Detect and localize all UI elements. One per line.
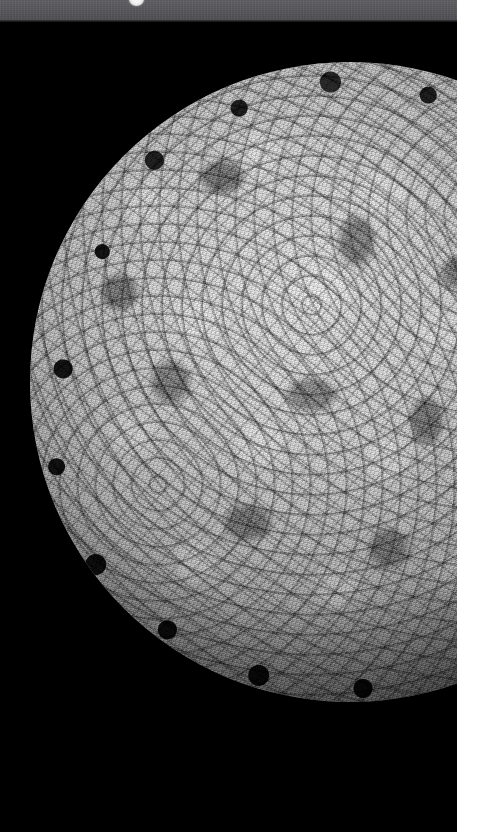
content-column: Grayscale space-filling render of an ico…	[0, 0, 457, 832]
toolbar-bottom-divider	[0, 20, 457, 22]
capsid-rim-silhouette-noise	[30, 62, 457, 702]
capsomer-highlight-layer	[30, 62, 457, 702]
molecular-structure-viewer[interactable]: Grayscale space-filling render of an ico…	[0, 22, 457, 832]
virus-capsid-model[interactable]	[30, 62, 457, 702]
subunit-groove-layer	[30, 62, 457, 702]
screenshot-root: Grayscale space-filling render of an ico…	[0, 0, 481, 832]
page-right-margin	[457, 0, 481, 832]
toolbar-indicator-icon[interactable]	[129, 0, 144, 6]
sphere-rim-shading-layer	[30, 62, 457, 702]
subunit-shadow-layer	[30, 62, 457, 702]
viewer-toolbar[interactable]	[0, 0, 457, 22]
atomic-speckle-layer	[30, 62, 457, 702]
